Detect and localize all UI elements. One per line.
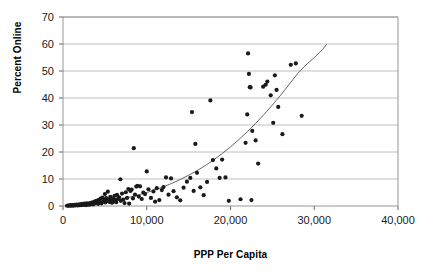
data-point [249,198,253,202]
data-point [249,85,253,89]
data-point [157,198,161,202]
data-point [271,121,275,125]
data-point [227,199,231,203]
data-points [65,51,304,207]
data-point [188,176,192,180]
data-point [269,93,273,97]
data-point [153,200,157,204]
data-point [132,146,136,150]
data-point [274,88,278,92]
data-point [245,112,249,116]
data-point [127,201,131,205]
data-point [133,193,137,197]
x-tick-marks [63,206,398,210]
data-point [198,185,202,189]
data-point [149,196,153,200]
data-point [178,198,182,202]
data-point [161,185,165,189]
data-point [140,197,144,201]
data-point [273,73,277,77]
data-point [208,98,212,102]
data-point [195,171,199,175]
data-point [276,105,280,109]
data-point [175,195,179,199]
data-point [238,197,242,201]
data-point [243,141,247,145]
data-point [143,192,147,196]
data-point [192,189,196,193]
data-point [289,63,293,67]
data-point [138,184,142,188]
data-point [254,138,258,142]
data-point [171,189,175,193]
data-point [218,176,222,180]
data-point [256,162,260,166]
data-point [247,72,251,76]
data-point [182,186,186,190]
scatter-chart: Percent Online PPP Per Capita 0102030405… [0,0,435,275]
data-point [164,175,168,179]
data-point [202,193,206,197]
data-point [205,180,209,184]
data-point [214,166,218,170]
data-point [223,175,227,179]
data-point [125,196,129,200]
data-point [118,177,122,181]
data-point [130,187,134,191]
data-point [185,180,189,184]
data-point [300,114,304,118]
gridlines [63,17,398,179]
data-point [250,129,254,133]
data-point [294,61,298,65]
data-point [106,190,110,194]
plot-area [0,0,435,275]
data-point [211,158,215,162]
data-point [151,189,155,193]
data-point [220,157,224,161]
data-point [120,191,124,195]
data-point [145,169,149,173]
y-tick-marks [59,17,63,206]
axis-lines [63,17,398,206]
data-point [246,51,250,55]
data-point [155,186,159,190]
data-point [280,132,284,136]
data-point [166,193,170,197]
data-point [265,79,269,83]
data-point [190,110,194,114]
data-point [146,187,150,191]
data-point [169,176,173,180]
data-point [122,201,126,205]
data-point [193,142,197,146]
data-point [131,196,135,200]
